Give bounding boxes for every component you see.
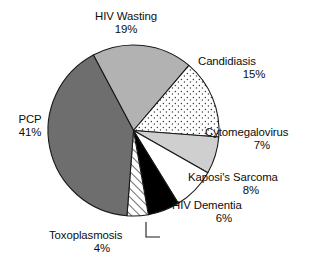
slice-label-hiv-dementia-name: HIV Dementia [172,199,276,212]
slice-label-hiv-wasting-name: HIV Wasting [66,10,186,23]
slice-label-toxoplasmosis: Toxoplasmosis 4% [49,229,155,256]
slice-label-hiv-wasting-value: 19% [66,23,186,36]
slice-label-cytomegalovirus: Cytomegalovirus 7% [205,126,319,153]
slice-label-toxoplasmosis-name: Toxoplasmosis [49,229,155,242]
slice-label-pcp-value: 41% [4,126,56,139]
slice-label-hiv-dementia: HIV Dementia 6% [172,199,276,226]
slice-label-cytomegalovirus-value: 7% [205,139,319,152]
slice-label-pcp-name: PCP [4,113,56,126]
slice-label-hiv-wasting: HIV Wasting 19% [66,10,186,37]
slice-label-cytomegalovirus-name: Cytomegalovirus [205,126,319,139]
slice-label-candidiasis-value: 15% [198,68,310,81]
slice-label-candidiasis-name: Candidiasis [198,55,310,68]
slice-label-kaposi-sarcoma-name: Kaposi's Sarcoma [188,171,314,184]
slice-label-candidiasis: Candidiasis 15% [198,55,310,82]
slice-label-hiv-dementia-value: 6% [172,212,276,225]
slice-label-toxoplasmosis-value: 4% [49,242,155,255]
slice-label-pcp: PCP 41% [4,113,56,140]
slice-label-kaposi-sarcoma: Kaposi's Sarcoma 8% [188,171,314,198]
pie-chart-figure: HIV Wasting 19% Candidiasis 15% Cytomega… [0,0,319,270]
slice-label-kaposi-sarcoma-value: 8% [188,184,314,197]
